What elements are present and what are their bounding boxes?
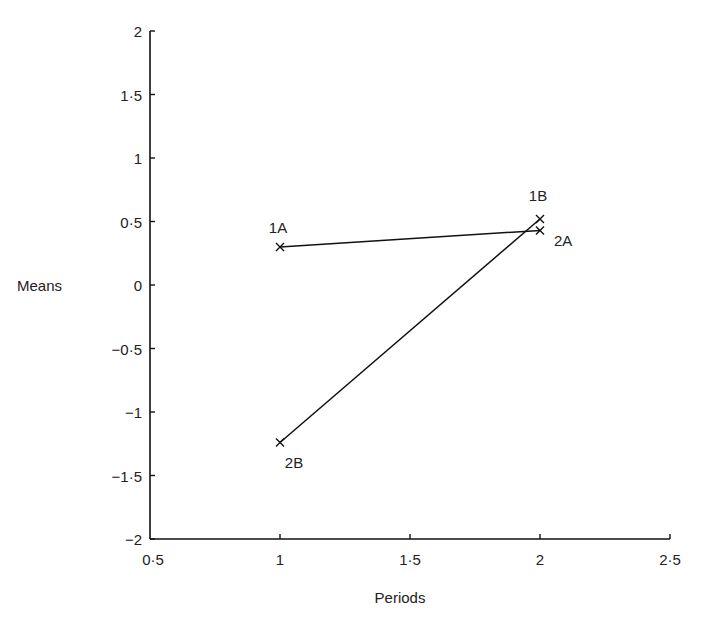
point-label: 2B	[285, 454, 303, 471]
x-axis-label: Periods	[375, 589, 426, 606]
y-tick-label: 2	[134, 23, 142, 40]
series-line-B	[280, 219, 540, 443]
y-tick-label: −0·5	[112, 341, 142, 358]
y-tick-label: 1	[134, 150, 142, 167]
point-label: 2A	[554, 232, 572, 249]
y-tick-label: 0·5	[120, 214, 142, 231]
series-lines: 1A2A2B1B	[269, 187, 573, 472]
x-tick-label: 0·5	[142, 551, 164, 568]
point-label: 1B	[529, 187, 547, 204]
point-label: 1A	[269, 219, 287, 236]
y-tick-label: −2	[125, 531, 142, 548]
interaction-plot: 21·510·50−0·5−1−1·5−20·511·522·5 1A2A2B1…	[0, 0, 704, 620]
y-tick-label: 1·5	[120, 87, 142, 104]
x-tick-label: 2	[536, 551, 544, 568]
y-tick-label: 0	[134, 277, 142, 294]
x-tick-label: 2·5	[659, 551, 681, 568]
series-line-A	[280, 230, 540, 247]
y-tick-label: −1·5	[112, 468, 142, 485]
x-marker-icon	[276, 438, 284, 446]
y-tick-label: −1	[125, 404, 142, 421]
y-axis-label: Means	[17, 277, 62, 294]
x-tick-label: 1	[276, 551, 284, 568]
x-tick-label: 1·5	[399, 551, 421, 568]
axes: 21·510·50−0·5−1−1·5−20·511·522·5	[112, 23, 681, 568]
x-marker-icon	[536, 215, 544, 223]
